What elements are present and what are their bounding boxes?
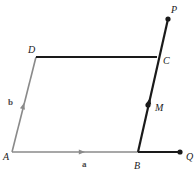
vector-b-label: b <box>8 98 13 107</box>
point-dot-p <box>165 16 170 21</box>
diagram-canvas <box>0 0 195 170</box>
point-label-b: B <box>134 161 140 170</box>
vector-a-label: a <box>82 160 87 169</box>
point-dot-m <box>145 102 150 107</box>
point-label-p: P <box>171 5 177 15</box>
arrowheads-group <box>20 97 153 154</box>
segments-group <box>12 19 180 152</box>
point-dot-q <box>177 149 182 154</box>
vector-diagram-figure: ABCDMPQ ab <box>0 0 195 170</box>
point-label-c: C <box>163 56 170 66</box>
arrowhead-a <box>79 149 85 154</box>
point-label-d: D <box>28 45 35 55</box>
point-label-q: Q <box>186 152 193 162</box>
point-label-a: A <box>3 152 9 162</box>
arrowhead-b <box>20 102 27 109</box>
point-label-m: M <box>155 103 163 113</box>
ray-bp <box>138 19 168 152</box>
